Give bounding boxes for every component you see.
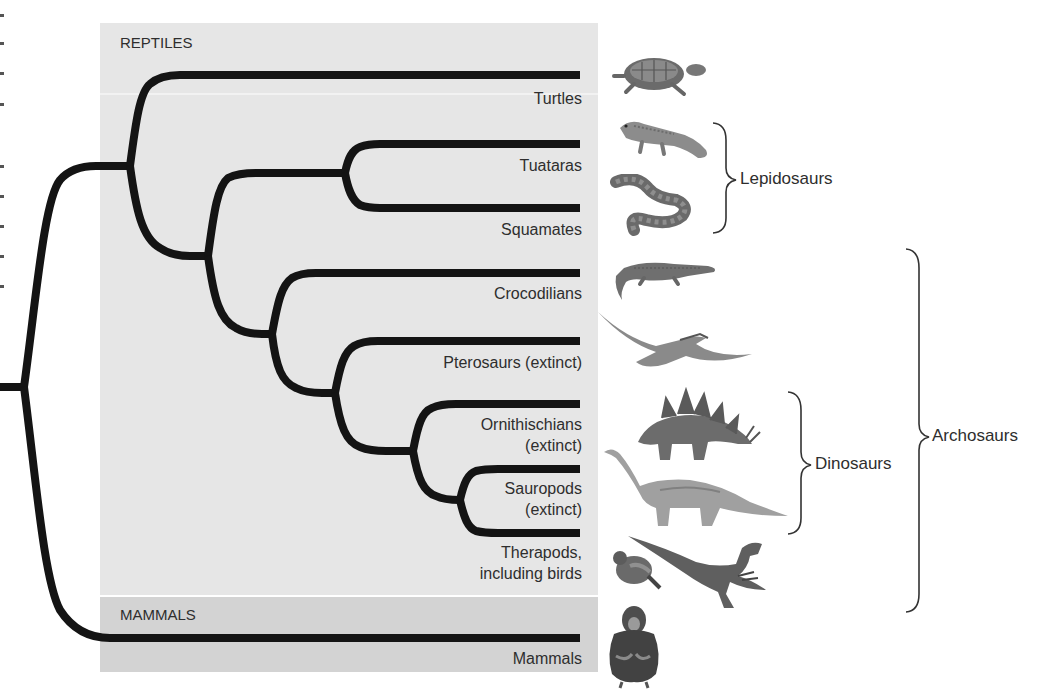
sauropod-icon (600, 446, 790, 532)
taxon-label-squamates: Squamates (501, 219, 582, 240)
taxon-label-pterosaurs: Pterosaurs (extinct) (443, 352, 582, 373)
turtle-icon (612, 50, 712, 98)
clade-label-archosaurs: Archosaurs (932, 426, 1018, 446)
taxon-label-line: (extinct) (505, 499, 582, 520)
taxon-label-mammals: Mammals (513, 648, 582, 669)
tuatara-icon (614, 114, 714, 166)
taxon-label-crocodilians: Crocodilians (494, 283, 582, 304)
branch-to-lepidosaurs-node (208, 173, 345, 256)
taxon-label-ornithischians: Ornithischians (extinct) (481, 414, 582, 456)
taxon-label-therapods: Therapods, including birds (480, 542, 582, 584)
phylogenetic-tree-figure: REPTILES MAMMALS (0, 0, 1037, 694)
taxon-label-line: (extinct) (481, 435, 582, 456)
branch-to-dinosaurs-node (335, 393, 413, 451)
clade-label-dinosaurs: Dinosaurs (815, 454, 892, 474)
taxon-label-line: Therapods, (480, 542, 582, 563)
taxon-label-turtles: Turtles (534, 88, 582, 109)
pterosaur-icon (596, 308, 756, 372)
raptor-icon (626, 534, 776, 614)
chimpanzee-icon (602, 604, 664, 690)
clade-label-lepidosaurs: Lepidosaurs (740, 169, 833, 189)
branch-squamates (345, 173, 580, 208)
branch-to-archosaurs-node (208, 256, 272, 334)
branch-to-saurischians-node (413, 451, 460, 500)
dinosaurs-bracket (788, 392, 811, 534)
tree-branches (0, 0, 1037, 694)
crocodile-icon (604, 252, 722, 302)
lepidosaurs-bracket (713, 123, 736, 233)
branch-root-to-reptiles (24, 166, 130, 387)
snake-icon (606, 174, 692, 238)
taxon-label-line: Sauropods (505, 478, 582, 499)
taxon-label-line: Ornithischians (481, 414, 582, 435)
branch-to-node-b (130, 166, 208, 256)
taxon-label-sauropods: Sauropods (extinct) (505, 478, 582, 520)
taxon-label-line: including birds (480, 563, 582, 584)
taxon-label-tuataras: Tuataras (519, 155, 582, 176)
branch-to-node-e (272, 334, 335, 393)
archosaurs-bracket (906, 249, 929, 612)
